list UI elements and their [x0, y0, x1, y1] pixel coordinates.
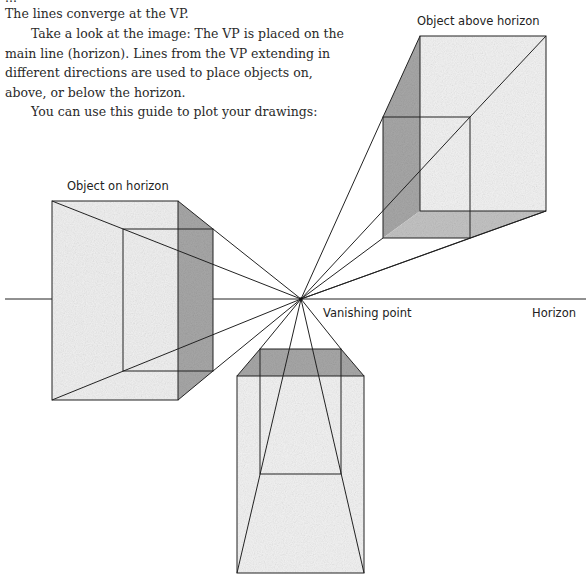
label-horizon: Horizon [532, 306, 576, 320]
label-object-above-horizon: Object above horizon [417, 14, 540, 28]
body-text-explanation: Take a look at the image: The VP is plac… [5, 24, 355, 102]
vanishing-point-marker [299, 297, 303, 301]
label-vanishing-point: Vanishing point [323, 306, 412, 320]
object-below-horizon [237, 299, 364, 573]
label-object-on-horizon: Object on horizon [67, 179, 169, 193]
body-text-converge: The lines converge at the VP. [5, 4, 355, 24]
body-text-guide: You can use this guide to plot your draw… [5, 102, 355, 122]
